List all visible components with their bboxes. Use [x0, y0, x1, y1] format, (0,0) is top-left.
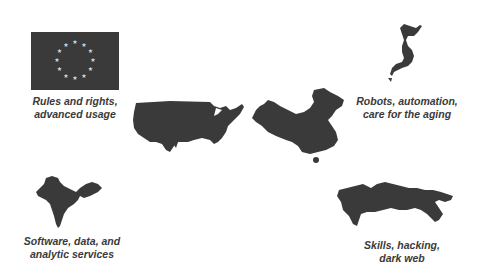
svg-text:★: ★: [63, 41, 68, 48]
svg-text:★: ★: [90, 56, 95, 63]
svg-text:★: ★: [72, 74, 77, 81]
svg-text:★: ★: [88, 65, 93, 72]
india-map-icon: [32, 174, 104, 230]
india-label: Software, data, and analytic services: [10, 235, 134, 261]
russia-label: Skills, hacking, dark web: [346, 239, 458, 265]
china-map-icon: [252, 88, 348, 168]
japan-map-icon: [388, 22, 428, 86]
svg-text:★: ★: [81, 72, 86, 79]
eu-label: Rules and rights, advanced usage: [22, 95, 128, 121]
svg-text:★: ★: [88, 47, 93, 54]
svg-text:★: ★: [54, 56, 59, 63]
svg-text:★: ★: [57, 65, 62, 72]
svg-text:★: ★: [81, 41, 86, 48]
svg-text:★: ★: [57, 47, 62, 54]
eu-flag-icon: ★ ★ ★ ★ ★ ★ ★ ★ ★ ★ ★ ★: [31, 32, 119, 90]
russia-map-icon: [335, 180, 461, 234]
svg-text:★: ★: [72, 38, 77, 45]
japan-label: Robots, automation, care for the aging: [350, 95, 464, 121]
usa-map-icon: [130, 98, 246, 158]
svg-text:★: ★: [63, 72, 68, 79]
